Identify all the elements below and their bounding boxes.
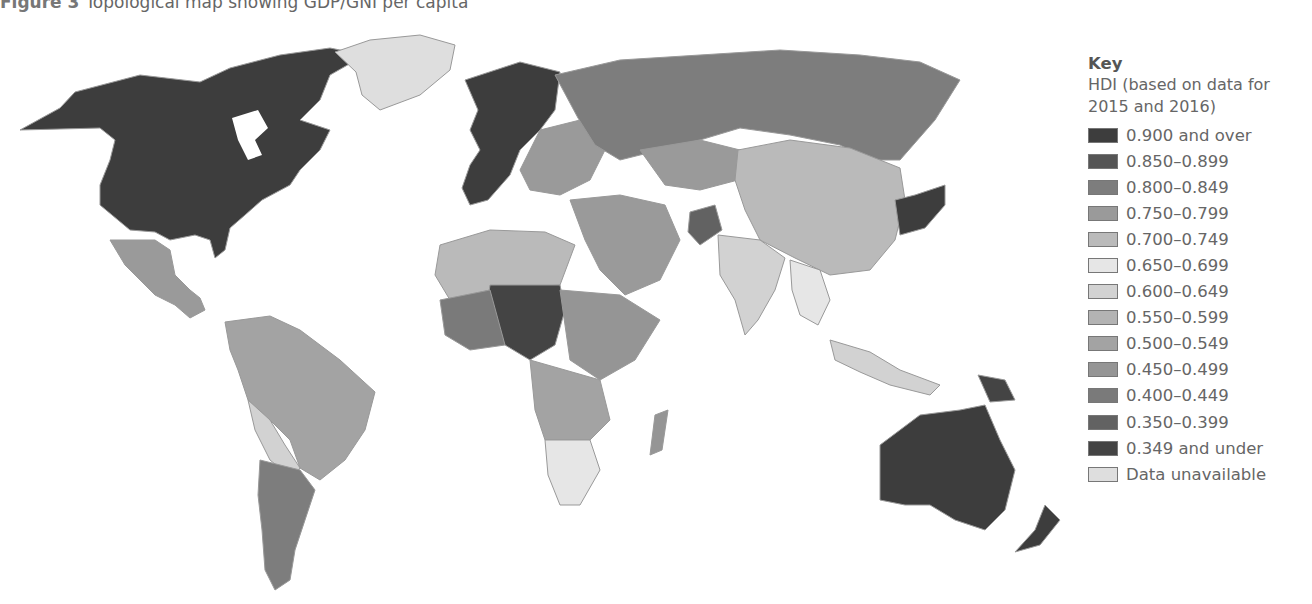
legend-swatch	[1088, 180, 1118, 195]
map-legend: Key HDI (based on data for 2015 and 2016…	[1088, 54, 1312, 487]
legend-item: 0.500–0.549	[1088, 331, 1312, 357]
legend-title: Key	[1088, 54, 1312, 74]
legend-swatch	[1088, 336, 1118, 351]
legend-swatch	[1088, 284, 1118, 299]
legend-label: 0.900 and over	[1126, 126, 1252, 145]
region-afghanistan	[688, 205, 722, 245]
region-india	[718, 235, 785, 335]
legend-item: 0.900 and over	[1088, 122, 1312, 148]
legend-label: 0.850–0.899	[1126, 152, 1229, 171]
legend-subtitle-line1: HDI (based on data for	[1088, 74, 1312, 96]
legend-item: 0.650–0.699	[1088, 252, 1312, 278]
legend-label: 0.700–0.749	[1126, 230, 1229, 249]
legend-item: 0.350–0.399	[1088, 409, 1312, 435]
region-indonesia	[830, 340, 940, 395]
legend-item: 0.850–0.899	[1088, 148, 1312, 174]
legend-item: 0.750–0.799	[1088, 200, 1312, 226]
legend-swatch	[1088, 441, 1118, 456]
legend-label: 0.650–0.699	[1126, 256, 1229, 275]
legend-item: 0.400–0.449	[1088, 383, 1312, 409]
legend-item: 0.550–0.599	[1088, 305, 1312, 331]
region-southern-africa	[545, 440, 600, 505]
figure-page: Figure 3Topological map showing GDP/GNI …	[0, 0, 1312, 604]
legend-label: 0.750–0.799	[1126, 204, 1229, 223]
legend-item: Data unavailable	[1088, 461, 1312, 487]
region-mexico	[110, 240, 205, 318]
region-central-asia	[640, 140, 740, 190]
legend-swatch	[1088, 388, 1118, 403]
legend-label: 0.350–0.399	[1126, 413, 1229, 432]
region-south-america	[225, 316, 375, 480]
legend-item: 0.600–0.649	[1088, 279, 1312, 305]
legend-item: 0.700–0.749	[1088, 226, 1312, 252]
legend-swatch	[1088, 258, 1118, 273]
region-russia	[555, 50, 960, 160]
region-north-america	[20, 48, 365, 258]
legend-swatch	[1088, 467, 1118, 482]
legend-swatch	[1088, 362, 1118, 377]
region-east-africa	[560, 290, 660, 380]
legend-swatch	[1088, 128, 1118, 143]
legend-label: Data unavailable	[1126, 465, 1266, 484]
world-map-svg	[0, 0, 1080, 604]
legend-label: 0.400–0.449	[1126, 386, 1229, 405]
legend-rows: 0.900 and over 0.850–0.899 0.800–0.849 0…	[1088, 122, 1312, 487]
legend-swatch	[1088, 310, 1118, 325]
legend-swatch	[1088, 232, 1118, 247]
world-map	[0, 0, 1080, 604]
legend-subtitle-line2: 2015 and 2016)	[1088, 96, 1312, 118]
legend-label: 0.500–0.549	[1126, 334, 1229, 353]
legend-label: 0.600–0.649	[1126, 282, 1229, 301]
legend-label: 0.349 and under	[1126, 439, 1263, 458]
legend-item: 0.349 and under	[1088, 435, 1312, 461]
legend-label: 0.800–0.849	[1126, 178, 1229, 197]
region-madagascar	[650, 410, 668, 455]
legend-item: 0.800–0.849	[1088, 174, 1312, 200]
region-southern-cone	[258, 460, 315, 590]
region-new-zealand	[1015, 505, 1060, 552]
legend-swatch	[1088, 206, 1118, 221]
legend-swatch	[1088, 415, 1118, 430]
legend-label: 0.550–0.599	[1126, 308, 1229, 327]
legend-label: 0.450–0.499	[1126, 360, 1229, 379]
region-middle-east	[570, 195, 680, 295]
region-australia	[880, 405, 1015, 530]
region-greenland	[335, 35, 455, 110]
legend-subtitle: HDI (based on data for 2015 and 2016)	[1088, 74, 1312, 118]
region-png	[978, 375, 1015, 402]
legend-swatch	[1088, 154, 1118, 169]
legend-item: 0.450–0.499	[1088, 357, 1312, 383]
